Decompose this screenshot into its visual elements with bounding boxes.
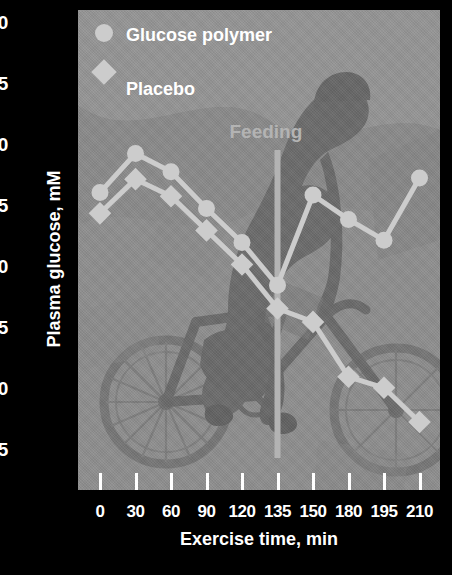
x-axis-tick-label: 210 xyxy=(390,503,450,520)
x-axis-tick-mark xyxy=(348,473,351,490)
y-axis-tick-label: 2.5 xyxy=(0,440,8,459)
x-axis-tick-mark xyxy=(383,473,386,490)
data-point-marker xyxy=(305,187,322,204)
y-axis-title: Plasma glucose, mM xyxy=(45,109,63,409)
y-axis-tick-label: 4.0 xyxy=(0,257,8,276)
series-line xyxy=(100,179,420,422)
legend-label-glucose-polymer: Glucose polymer xyxy=(126,26,272,44)
y-axis-tick-label: 3.0 xyxy=(0,379,8,398)
x-axis-tick-mark xyxy=(241,473,244,490)
legend-label-placebo: Placebo xyxy=(126,80,195,98)
x-axis-tick-mark xyxy=(419,473,422,490)
data-point-marker xyxy=(376,232,393,249)
data-point-marker xyxy=(92,184,109,201)
y-axis-tick-label: 3.5 xyxy=(0,318,8,337)
y-axis-tick-label: 5.5 xyxy=(0,74,8,93)
x-axis-tick-mark xyxy=(312,473,315,490)
data-point-marker xyxy=(340,211,357,228)
x-axis-tick-mark xyxy=(99,473,102,490)
y-axis-tick-label: 6.0 xyxy=(0,13,8,32)
x-axis-title: Exercise time, min xyxy=(78,530,440,548)
x-axis-tick-mark xyxy=(206,473,209,490)
plot-area: Feeding Glucose polymer Placebo xyxy=(78,10,440,490)
data-point-marker xyxy=(198,200,215,217)
series-line xyxy=(100,154,420,286)
data-point-marker xyxy=(163,163,180,180)
data-point-marker xyxy=(269,277,286,294)
data-point-marker xyxy=(411,169,428,186)
chart-figure: Feeding Glucose polymer Placebo 6.05.55.… xyxy=(0,0,452,575)
series-lines xyxy=(100,154,420,422)
data-point-marker xyxy=(127,145,144,162)
x-axis-tick-mark xyxy=(135,473,138,490)
data-point-marker xyxy=(234,234,251,251)
y-axis-tick-label: 5.0 xyxy=(0,135,8,154)
x-axis-tick-mark xyxy=(170,473,173,490)
x-axis-tick-mark xyxy=(277,473,280,490)
y-axis-tick-label: 4.5 xyxy=(0,196,8,215)
